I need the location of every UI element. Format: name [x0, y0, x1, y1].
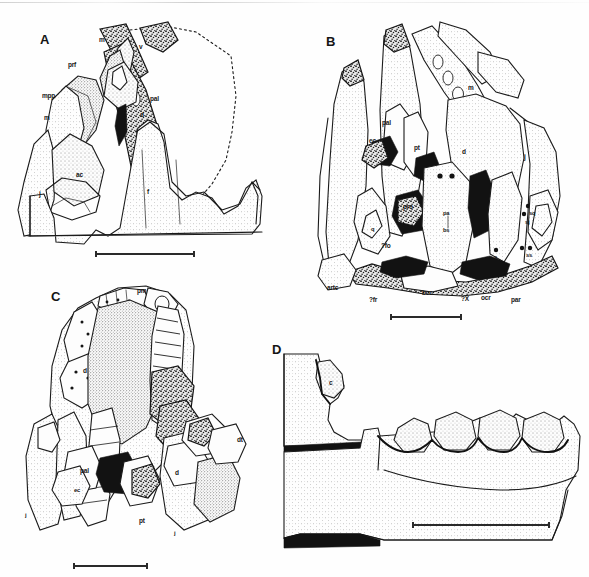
panel-b-label-j: j [524, 154, 526, 161]
panel-b-label-s: s [494, 255, 497, 261]
panel-c-label-j-right: j [174, 531, 175, 537]
panel-b-label-sj: sj [525, 220, 529, 226]
panel-c-label-d-right: d [175, 470, 179, 477]
panel-b-label-par: par [511, 297, 521, 304]
panel-b-label-ec: ec [369, 138, 376, 145]
panel-b-label-ocr: ocr [481, 295, 491, 302]
panel-b-letter: B [326, 35, 335, 48]
panel-b-scalebar [390, 316, 462, 318]
panel-b-label-pt: pt [414, 145, 420, 152]
panel-a-label-mpp: mpp [42, 93, 55, 100]
figure-plate: A m v prf mpp pal d m j ac f B m pal ec … [0, 0, 589, 577]
panel-b-label-ss: ss [526, 253, 532, 259]
panel-c-label-ec: ec [74, 488, 80, 494]
panel-a-label-prf: prf [68, 62, 76, 69]
panel-b-label-bs: bs [443, 228, 449, 234]
panel-d-letter: D [272, 343, 281, 356]
panel-b-label-X: ?X [461, 296, 469, 303]
panel-b-label-m: m [468, 85, 474, 92]
panel-b-label-fo: ?fo [381, 243, 391, 250]
panel-c-label-d-upper: d [83, 368, 87, 375]
panel-b-label-sq: sq [529, 211, 535, 217]
panel-c-drawing [26, 286, 246, 530]
panel-a-label-m-upper: m [99, 37, 105, 44]
panel-b-label-fr: ?fr [369, 297, 377, 304]
panel-c-scalebar [73, 565, 148, 567]
panel-b-label-bcc: bcc [422, 290, 433, 297]
panel-a-label-d: d [140, 112, 144, 119]
panel-b-label-pal: pal [382, 120, 391, 127]
panel-b-label-artc: artc [327, 285, 338, 292]
panel-c-label-dt: dt [237, 437, 243, 444]
panel-a-label-f: f [147, 189, 149, 196]
panel-c-label-pm: pm [137, 288, 146, 295]
panel-b-label-pa: pa [443, 211, 449, 217]
panel-c-letter: C [51, 290, 60, 303]
panel-a-label-j: j [39, 191, 41, 198]
panel-a-label-pal: pal [150, 96, 159, 103]
panel-c-label-pt: pt [139, 518, 145, 525]
panel-b-label-d: d [462, 149, 466, 156]
panel-a-scalebar [95, 253, 195, 255]
panel-c-label-pal: pal [80, 468, 89, 475]
plate-artwork [0, 0, 589, 577]
panel-a-label-v: v [139, 44, 142, 51]
panel-c-label-j-left: j [25, 513, 26, 519]
panel-a-label-ac: ac [76, 172, 83, 179]
panel-a-drawing [18, 22, 262, 244]
panel-d-scalebar [412, 524, 550, 526]
panel-a-letter: A [40, 33, 49, 46]
panel-a-label-m-lower: m [44, 115, 50, 122]
panel-b-label-q: q [371, 227, 374, 233]
panel-b-label-pro: pro [403, 204, 413, 211]
panel-d-label-c: c [329, 380, 332, 387]
